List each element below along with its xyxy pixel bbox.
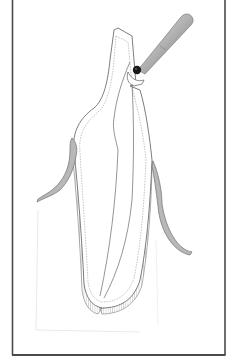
illustration-canvas xyxy=(0,0,229,362)
gingiva-left xyxy=(37,138,77,202)
dental-instrument xyxy=(133,14,193,74)
gingiva-right xyxy=(152,161,192,255)
dental-illustration xyxy=(0,0,229,362)
instrument-tip-icon xyxy=(133,66,141,74)
